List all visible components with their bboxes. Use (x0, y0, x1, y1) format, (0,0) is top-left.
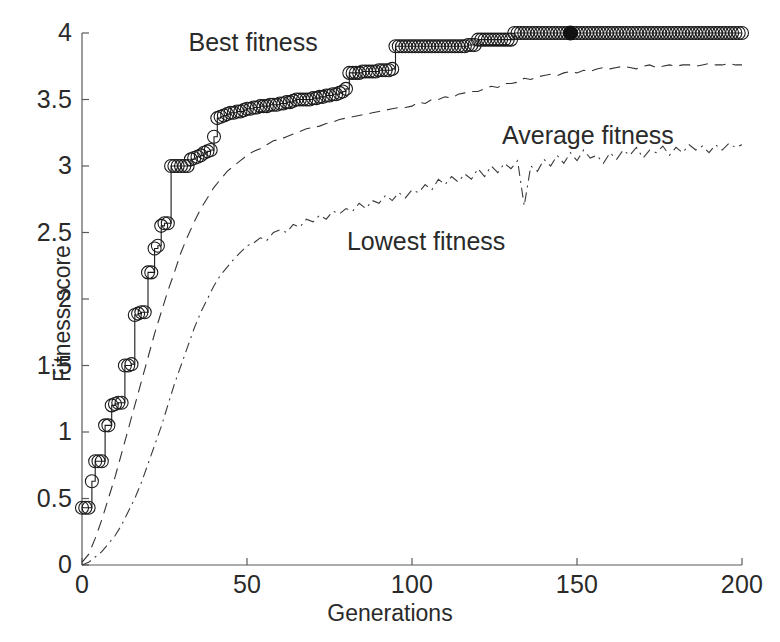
y-tick-label-6: 3 (0, 153, 72, 178)
x-tick-label-3: 150 (537, 572, 617, 597)
x-axis-title-text: Generations (327, 600, 452, 626)
fitness-evolution-chart: 050100150200 00.511.522.533.54 Best fitn… (0, 0, 780, 642)
best-fitness-path (82, 33, 742, 508)
y-tick-label-2: 1 (0, 419, 72, 444)
best-fitness-highlight-marker (563, 26, 577, 40)
x-axis-ticks (82, 558, 742, 565)
axis-lines (82, 33, 742, 565)
lowest-fitness-label: Lowest fitness (347, 227, 505, 256)
lowest-fitness-path (82, 143, 742, 565)
y-tick-label-7: 3.5 (0, 87, 72, 112)
y-axis-ticks (82, 33, 89, 565)
y-axis-title-text: Fitness score (49, 245, 75, 382)
x-tick-label-4: 200 (702, 572, 780, 597)
series-line-best-fitness (82, 33, 742, 508)
average-fitness-label: Average fitness (502, 121, 674, 150)
best-fitness-label: Best fitness (189, 28, 318, 57)
plot-canvas (0, 0, 780, 642)
series-markers-best-fitness (76, 26, 749, 514)
y-tick-label-0: 0 (0, 552, 72, 577)
y-tick-label-8: 4 (0, 20, 72, 45)
x-axis-title: Generations (0, 600, 780, 627)
y-axis-title: Fitness score (49, 214, 76, 414)
x-tick-label-1: 50 (207, 572, 287, 597)
series-line-lowest-fitness (82, 143, 742, 565)
y-tick-label-1: 0.5 (0, 486, 72, 511)
x-tick-label-2: 100 (372, 572, 452, 597)
